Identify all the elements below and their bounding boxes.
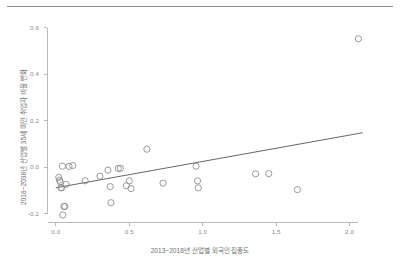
x-tick-label: 1.5 (264, 228, 288, 235)
data-point (97, 173, 103, 179)
scatter-plot-figure: 2018~2038년 산업별 35세 미만 취업자 비율 변화 2013~201… (0, 0, 400, 267)
y-tick-label: 0.4 (17, 70, 39, 77)
data-point (82, 178, 88, 184)
data-point (108, 200, 114, 206)
y-tick-label: 0.2 (17, 117, 39, 124)
trendline (56, 133, 363, 188)
data-point (128, 185, 134, 191)
y-axis-label: 2018~2038년 산업별 35세 미만 취업자 비율 변화 (18, 69, 28, 205)
data-point (70, 162, 76, 168)
plot-canvas (0, 0, 400, 267)
y-axis-label-container: 2018~2038년 산업별 35세 미만 취업자 비율 변화 (12, 0, 26, 230)
data-point (266, 171, 272, 177)
x-tick-label: 0.5 (117, 228, 141, 235)
data-point (59, 163, 65, 169)
x-axis-label: 2013~2018년 산업별 외국인 집중도 (0, 245, 400, 255)
y-tick-label: 0.6 (17, 24, 39, 31)
data-point (160, 180, 166, 186)
data-point (105, 167, 111, 173)
x-tick-label: 2.0 (338, 228, 362, 235)
axes-group (44, 28, 358, 226)
x-tick-label: 1.0 (191, 228, 215, 235)
data-point (194, 178, 200, 184)
data-point (294, 187, 300, 193)
y-tick-label: -0.2 (17, 210, 39, 217)
x-tick-label: 0.0 (44, 228, 68, 235)
data-point (193, 163, 199, 169)
data-point (107, 184, 113, 190)
data-point (144, 146, 150, 152)
data-point (252, 171, 258, 177)
data-points-group (56, 36, 362, 218)
data-point (195, 185, 201, 191)
y-tick-label: 0.0 (17, 163, 39, 170)
data-point (126, 178, 132, 184)
data-point (60, 212, 66, 218)
data-point (355, 36, 361, 42)
trendline-group (56, 133, 363, 188)
data-point (63, 181, 69, 187)
